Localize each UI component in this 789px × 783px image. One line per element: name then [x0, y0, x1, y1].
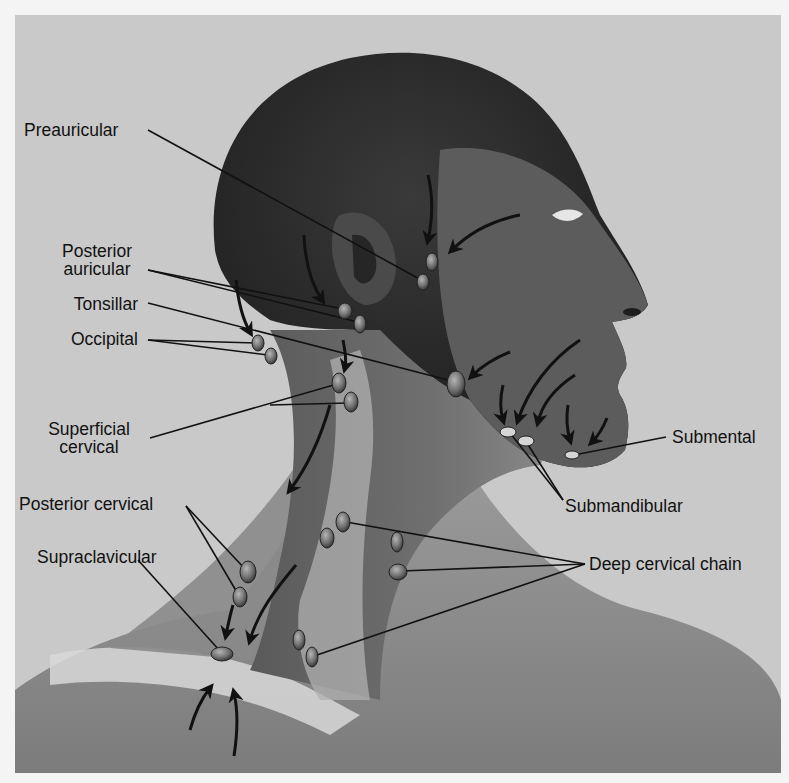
nostril	[623, 308, 641, 316]
node-deep-cervical	[306, 647, 318, 667]
node-deep-cervical	[391, 532, 403, 552]
node-supraclavicular	[211, 647, 233, 661]
lymph-node-illustration	[0, 0, 789, 783]
node-superficial-cervical	[332, 373, 346, 393]
node-tonsillar	[447, 371, 465, 397]
node-superficial-cervical	[344, 392, 358, 412]
node-submental	[565, 451, 579, 459]
label-superficial-cervical-line2: cervical	[36, 438, 142, 457]
label-supraclavicular: Supraclavicular	[37, 548, 157, 567]
figure-body	[15, 53, 781, 773]
node-submandibular	[518, 436, 534, 446]
label-posterior-cervical: Posterior cervical	[19, 495, 153, 514]
node-posterior-auricular	[338, 303, 352, 319]
label-occipital: Occipital	[40, 330, 138, 349]
label-submandibular: Submandibular	[565, 497, 683, 516]
label-tonsillar: Tonsillar	[40, 295, 138, 314]
node-occipital	[252, 335, 264, 351]
node-posterior-cervical	[240, 561, 256, 583]
label-submental: Submental	[672, 428, 756, 447]
node-deep-cervical	[389, 564, 407, 580]
node-submandibular	[500, 427, 516, 437]
label-preauricular: Preauricular	[24, 121, 118, 140]
node-deep-cervical	[336, 512, 350, 532]
node-occipital	[265, 348, 277, 364]
node-posterior-cervical	[233, 587, 247, 607]
label-deep-cervical-chain: Deep cervical chain	[589, 555, 742, 574]
node-preauricular	[417, 274, 429, 290]
label-posterior-auricular-line2: auricular	[56, 260, 138, 279]
node-deep-cervical	[293, 630, 305, 650]
node-preauricular	[426, 253, 438, 271]
node-deep-cervical	[320, 528, 334, 548]
node-posterior-auricular	[354, 315, 366, 333]
